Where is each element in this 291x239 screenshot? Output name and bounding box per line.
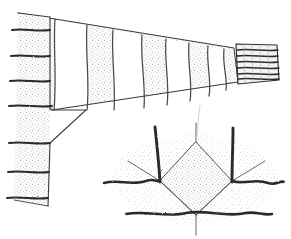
side-band-rung-7 — [7, 197, 48, 198]
side-band-rung-2 — [11, 55, 50, 56]
white-stripe-3 — [166, 39, 191, 105]
figure-root — [0, 0, 291, 239]
side-band-rung-4 — [9, 105, 52, 106]
illustration-canvas — [0, 0, 291, 239]
needle-right — [232, 128, 233, 182]
side-band-fill — [14, 13, 50, 206]
side-band-rung-3 — [10, 80, 50, 81]
side-band-rung-5 — [9, 142, 50, 143]
side-band-rung-1 — [12, 29, 50, 30]
cuff — [236, 44, 279, 84]
side-band-rung-6 — [8, 171, 49, 172]
white-stripe-1 — [55, 20, 88, 110]
